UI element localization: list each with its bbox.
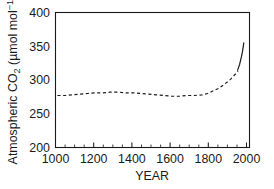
series-mauna-loa-line — [238, 43, 244, 70]
x-tick-label: 1800 — [195, 152, 223, 166]
plot-frame — [56, 13, 250, 148]
y-axis-title-superscript: −1 — [5, 0, 15, 10]
x-tick-label: 1600 — [156, 152, 184, 166]
x-tick-labels: 1000 1200 1400 1600 1800 2000 — [42, 152, 261, 166]
y-tick-label: 250 — [29, 107, 50, 121]
chart-canvas: 200 250 300 350 400 1000 1200 1400 1600 … — [0, 0, 274, 189]
y-tick-label: 300 — [29, 73, 50, 87]
y-axis-title-lead: Atmospheric CO — [6, 73, 20, 164]
y-tick-labels: 200 250 300 350 400 — [29, 6, 50, 155]
x-tick-label: 1000 — [42, 152, 70, 166]
x-tick-label: 1400 — [118, 152, 146, 166]
y-tick-label: 350 — [29, 40, 50, 54]
y-axis-title-unit-open: (µmol mol — [6, 10, 20, 68]
y-tick-label: 400 — [29, 6, 50, 20]
y-axis-title: Atmospheric CO2 (µmol mol−1) — [5, 0, 22, 164]
x-tick-label: 2000 — [233, 152, 261, 166]
x-tick-label: 1200 — [80, 152, 108, 166]
series-ice-core-line — [57, 71, 238, 97]
co2-chart-figure: 200 250 300 350 400 1000 1200 1400 1600 … — [0, 0, 274, 189]
x-axis-title: YEAR — [135, 169, 169, 183]
